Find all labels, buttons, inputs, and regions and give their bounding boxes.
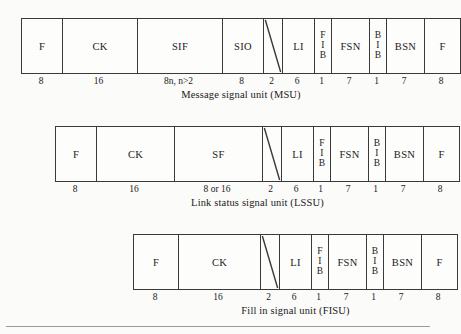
field-letter: B — [375, 51, 382, 61]
field-letter: B — [320, 51, 327, 61]
field-label: F — [439, 41, 445, 52]
field-cell-bsn: BSN — [383, 235, 421, 289]
bit-count-label: 8 or 16 — [173, 184, 261, 194]
bit-count-row-msu: 8168n, n>282617178 — [21, 76, 461, 86]
diagonal-break-icon — [263, 127, 281, 181]
field-cell-li: LI — [281, 127, 313, 181]
bit-count-label: 7 — [330, 76, 368, 86]
bit-count-label: 8 — [420, 292, 456, 302]
field-cell-bsn: BSN — [385, 127, 423, 181]
field-label: SF — [212, 149, 224, 160]
bit-count-label: 8 — [422, 184, 458, 194]
bit-count-label: 1 — [367, 184, 384, 194]
figure-caption-lssu: Link status signal unit (LSSU) — [55, 197, 460, 208]
bit-count-label: 1 — [368, 76, 385, 86]
field-letter: B — [317, 267, 324, 277]
field-cell-bsn: BSN — [386, 19, 424, 73]
field-cell-bib: BIB — [366, 235, 383, 289]
field-label: F — [73, 149, 79, 160]
field-cell-fib: FIB — [314, 19, 331, 73]
figure-msu: FCKSIFSIOLIFIBFSNBIBBSNF8168n, n>2826171… — [21, 18, 461, 100]
bit-count-label: 6 — [280, 184, 312, 194]
diagonal-break-icon — [261, 235, 279, 289]
field-cell-f: F — [423, 127, 459, 181]
field-label: LI — [293, 41, 304, 52]
field-label: CK — [128, 149, 143, 160]
bit-count-label: 2 — [262, 76, 281, 86]
field-label: LI — [290, 257, 301, 268]
field-cell-f: F — [421, 235, 457, 289]
bottom-horizontal-rule — [6, 326, 430, 327]
field-cell-fsn: FSN — [330, 127, 368, 181]
bit-count-label: 8n, n>2 — [136, 76, 221, 86]
field-cell-f: F — [56, 127, 96, 181]
field-letter: B — [374, 159, 381, 169]
field-cell-ck: CK — [178, 235, 260, 289]
bit-count-label: 16 — [177, 292, 259, 302]
figure-caption-msu: Message signal unit (MSU) — [21, 89, 461, 100]
bit-count-label: 8 — [21, 76, 61, 86]
bit-count-label: 8 — [133, 292, 177, 302]
bit-count-label: 2 — [259, 292, 278, 302]
bit-count-label: 1 — [313, 76, 330, 86]
field-cell-bib: BIB — [369, 19, 386, 73]
bit-count-label: 7 — [382, 292, 420, 302]
field-label: BSN — [394, 149, 415, 160]
field-cell-diagonal-break — [260, 235, 279, 289]
bit-count-label: 7 — [329, 184, 367, 194]
bit-count-label: 8 — [55, 184, 95, 194]
field-cell-f: F — [134, 235, 178, 289]
bit-count-row-fisu: 8162617178 — [133, 292, 458, 302]
bit-count-label: 1 — [310, 292, 327, 302]
field-cell-f: F — [22, 19, 62, 73]
bit-count-label: 1 — [365, 292, 382, 302]
field-cell-li: LI — [282, 19, 314, 73]
signal-unit-row-msu: FCKSIFSIOLIFIBFSNBIBBSNF — [21, 18, 461, 74]
field-label: F — [438, 149, 444, 160]
field-letter: B — [372, 267, 379, 277]
bit-count-label: 16 — [61, 76, 136, 86]
field-label: SIO — [234, 41, 252, 52]
field-cell-bib: BIB — [368, 127, 385, 181]
field-cell-diagonal-break — [263, 19, 282, 73]
field-label: F — [436, 257, 442, 268]
figure-lssu: FCKSFLIFIBFSNBIBBSNF8168 or 162617178Lin… — [55, 126, 460, 208]
field-letter: B — [319, 159, 326, 169]
bit-count-row-lssu: 8168 or 162617178 — [55, 184, 460, 194]
field-cell-sf: SF — [174, 127, 262, 181]
field-label: FSN — [339, 149, 359, 160]
field-label: LI — [292, 149, 303, 160]
bit-count-label: 8 — [423, 76, 459, 86]
field-label: BSN — [395, 41, 416, 52]
field-label: F — [39, 41, 45, 52]
field-cell-fsn: FSN — [328, 235, 366, 289]
field-label: FSN — [340, 41, 360, 52]
bit-count-label: 6 — [278, 292, 310, 302]
field-label: F — [153, 257, 159, 268]
bit-count-label: 8 — [221, 76, 262, 86]
diagonal-break-icon — [264, 19, 282, 73]
figure-fisu: FCKLIFIBFSNBIBBSNF8162617178Fill in sign… — [133, 234, 458, 316]
field-cell-fsn: FSN — [331, 19, 369, 73]
figure-caption-fisu: Fill in signal unit (FISU) — [133, 305, 458, 316]
signal-unit-row-lssu: FCKSFLIFIBFSNBIBBSNF — [55, 126, 460, 182]
field-cell-diagonal-break — [262, 127, 281, 181]
field-cell-fib: FIB — [313, 127, 330, 181]
bit-count-label: 2 — [261, 184, 280, 194]
field-cell-li: LI — [279, 235, 311, 289]
field-cell-f: F — [424, 19, 460, 73]
bit-count-label: 7 — [327, 292, 365, 302]
bit-count-label: 6 — [281, 76, 313, 86]
field-cell-ck: CK — [62, 19, 137, 73]
field-label: SIF — [172, 41, 188, 52]
field-label: FSN — [337, 257, 357, 268]
field-label: CK — [92, 41, 107, 52]
field-cell-fib: FIB — [311, 235, 328, 289]
field-cell-ck: CK — [96, 127, 174, 181]
field-cell-sif: SIF — [137, 19, 222, 73]
signal-unit-row-fisu: FCKLIFIBFSNBIBBSNF — [133, 234, 458, 290]
bit-count-label: 7 — [385, 76, 423, 86]
bit-count-label: 7 — [384, 184, 422, 194]
bit-count-label: 1 — [312, 184, 329, 194]
